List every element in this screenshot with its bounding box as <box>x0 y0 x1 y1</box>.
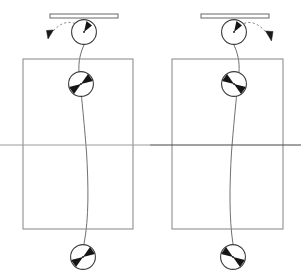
left-panel <box>23 14 133 269</box>
top-ball <box>72 20 97 45</box>
right-panel <box>172 14 283 269</box>
bottom-ball <box>221 245 246 270</box>
bottom-ball-center-dot <box>82 256 84 258</box>
diagram-canvas <box>0 0 301 280</box>
dashed-motion-arrowhead <box>266 31 274 41</box>
support-bar <box>50 14 118 18</box>
top-ball-center-dot <box>233 31 235 33</box>
bottom-ball <box>71 245 96 270</box>
support-bar <box>201 14 269 18</box>
top-ball-center-dot <box>83 31 85 33</box>
physics-diagram-figure <box>0 0 301 280</box>
top-ball <box>222 20 247 45</box>
middle-ball-center-dot <box>80 83 82 85</box>
middle-ball-center-dot <box>233 83 235 85</box>
bottom-ball-center-dot <box>232 256 234 258</box>
middle-ball <box>222 72 247 97</box>
dashed-motion-arrow-curve <box>244 22 267 33</box>
dashed-motion-arrowhead <box>47 30 54 39</box>
middle-ball <box>69 72 94 97</box>
